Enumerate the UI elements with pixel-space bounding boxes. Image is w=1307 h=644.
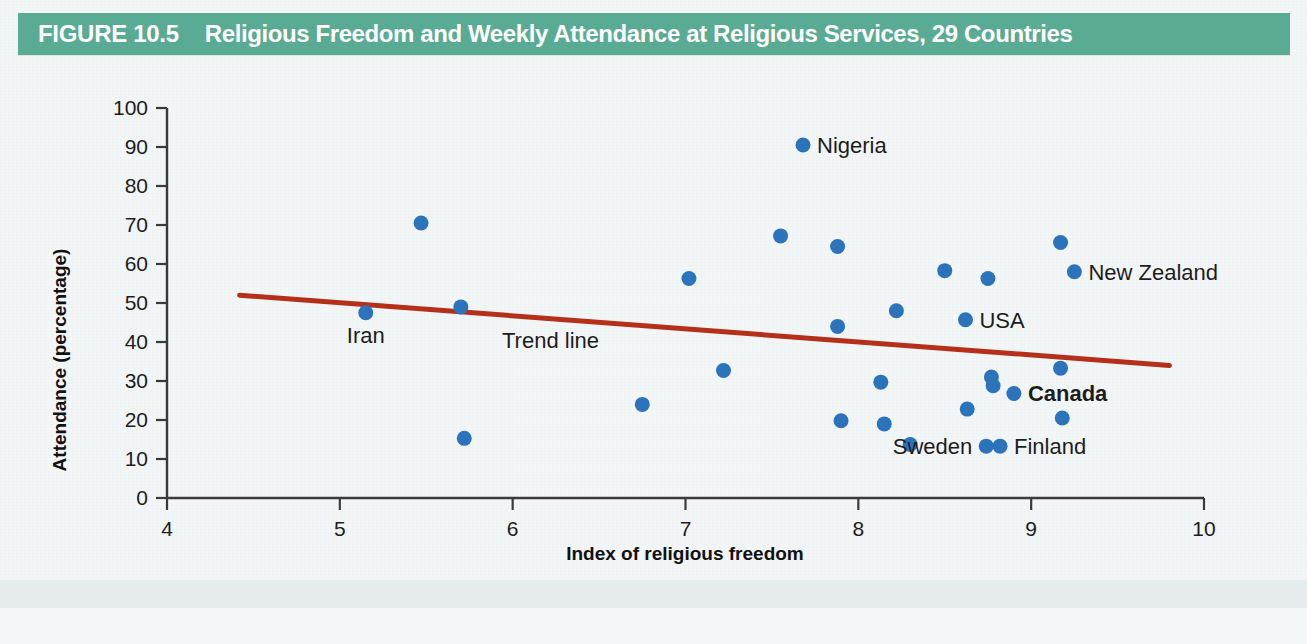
data-point bbox=[993, 439, 1008, 454]
figure-number: FIGURE 10.5 bbox=[38, 20, 179, 48]
data-point bbox=[457, 431, 472, 446]
x-tick-label: 6 bbox=[507, 517, 519, 540]
y-tick-label: 70 bbox=[125, 213, 148, 236]
data-point bbox=[796, 138, 811, 153]
data-point bbox=[414, 216, 429, 231]
x-axis: 45678910 bbox=[161, 498, 1216, 540]
y-axis: 0102030405060708090100 bbox=[113, 96, 167, 509]
source-strip bbox=[0, 580, 1307, 644]
y-tick-label: 60 bbox=[125, 252, 148, 275]
x-axis-title: Index of religious freedom bbox=[566, 543, 804, 564]
data-point bbox=[358, 305, 373, 320]
point-label: Finland bbox=[1014, 434, 1086, 459]
data-point bbox=[873, 375, 888, 390]
figure-header-bar: FIGURE 10.5 Religious Freedom and Weekly… bbox=[18, 13, 1290, 55]
y-axis-title: Attendance (percentage) bbox=[49, 249, 70, 472]
data-point bbox=[716, 363, 731, 378]
data-point bbox=[889, 303, 904, 318]
x-tick-label: 7 bbox=[680, 517, 692, 540]
figure-page: FIGURE 10.5 Religious Freedom and Weekly… bbox=[0, 0, 1307, 644]
data-point bbox=[834, 413, 849, 428]
data-point bbox=[979, 439, 994, 454]
point-label: Iran bbox=[347, 323, 385, 348]
data-point bbox=[830, 319, 845, 334]
y-tick-label: 100 bbox=[113, 96, 148, 119]
x-tick-label: 5 bbox=[334, 517, 346, 540]
trend-line-label: Trend line bbox=[502, 328, 599, 353]
data-point bbox=[1053, 361, 1068, 376]
point-label: Canada bbox=[1028, 381, 1108, 406]
y-tick-label: 0 bbox=[136, 486, 148, 509]
data-point bbox=[1006, 386, 1021, 401]
y-tick-label: 30 bbox=[125, 369, 148, 392]
figure-title: Religious Freedom and Weekly Attendance … bbox=[205, 20, 1073, 48]
scatter-chart: 0102030405060708090100 45678910 IranNige… bbox=[0, 60, 1307, 580]
data-point bbox=[877, 416, 892, 431]
data-point bbox=[986, 378, 1001, 393]
point-label: New Zealand bbox=[1088, 260, 1218, 285]
point-label: USA bbox=[979, 308, 1025, 333]
x-tick-label: 9 bbox=[1025, 517, 1037, 540]
data-point bbox=[453, 299, 468, 314]
scatter-plot-svg: 0102030405060708090100 45678910 IranNige… bbox=[0, 60, 1307, 580]
x-tick-label: 10 bbox=[1192, 517, 1215, 540]
point-label: Nigeria bbox=[817, 133, 887, 158]
data-point bbox=[980, 271, 995, 286]
data-point bbox=[1053, 235, 1068, 250]
data-point bbox=[830, 239, 845, 254]
data-point bbox=[937, 263, 952, 278]
y-tick-label: 80 bbox=[125, 174, 148, 197]
data-point bbox=[958, 312, 973, 327]
y-tick-label: 90 bbox=[125, 135, 148, 158]
y-tick-label: 20 bbox=[125, 408, 148, 431]
x-tick-label: 8 bbox=[852, 517, 864, 540]
data-point bbox=[1055, 411, 1070, 426]
data-point bbox=[635, 397, 650, 412]
y-tick-label: 10 bbox=[125, 447, 148, 470]
data-point bbox=[1067, 264, 1082, 279]
y-tick-label: 40 bbox=[125, 330, 148, 353]
data-point bbox=[773, 228, 788, 243]
x-tick-label: 4 bbox=[161, 517, 173, 540]
data-point bbox=[960, 402, 975, 417]
data-points bbox=[358, 138, 1082, 454]
point-labels: IranNigeriaUSASwedenFinlandCanadaNew Zea… bbox=[347, 133, 1218, 459]
data-point bbox=[681, 271, 696, 286]
point-label: Sweden bbox=[893, 434, 973, 459]
y-tick-label: 50 bbox=[125, 291, 148, 314]
